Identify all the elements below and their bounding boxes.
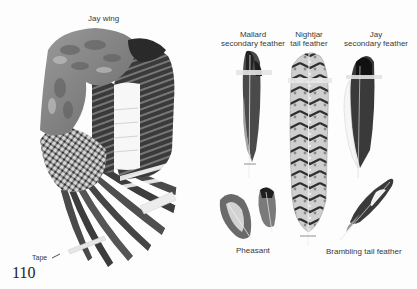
jay-secondary-label-line1: Jay <box>336 30 416 39</box>
book-page: Jay wing Tape Mallard secondary feather … <box>0 0 417 289</box>
tape-label: Tape <box>32 253 47 262</box>
pheasant-label: Pheasant <box>236 246 270 255</box>
jay-wing-title: Jay wing <box>88 14 119 23</box>
brambling-label: Brambling tail feather <box>326 247 402 256</box>
brambling-feather-illustration <box>340 179 393 240</box>
mallard-feather-illustration <box>236 51 272 178</box>
page-number: 110 <box>12 264 35 282</box>
jay-secondary-label: Jay secondary feather <box>336 30 416 48</box>
jay-wing-illustration <box>40 28 177 268</box>
nightjar-feather-illustration <box>288 53 332 246</box>
nightjar-label-line1: Nightjar <box>280 30 338 39</box>
jay-secondary-label-line2: secondary feather <box>336 39 416 48</box>
nightjar-label: Nightjar tail feather <box>280 30 338 48</box>
pheasant-feathers-illustration <box>220 187 276 240</box>
jay-secondary-feather-illustration <box>344 56 382 178</box>
nightjar-label-line2: tail feather <box>280 39 338 48</box>
